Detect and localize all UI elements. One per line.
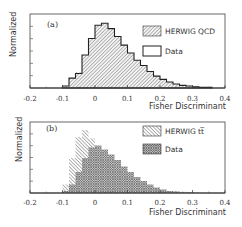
- legend-label-herwig-qcd: HERWIG QCD: [165, 27, 215, 36]
- x-tick-b: 0.2: [154, 199, 165, 207]
- chart-panel-a: (a) Normalized HERWIG QCD Data -0.2 -0.1…: [0, 0, 242, 112]
- panel-label-b: (b): [46, 124, 57, 133]
- x-tick-b: -0.2: [23, 199, 37, 207]
- x-tick-a: -0.1: [56, 95, 70, 103]
- legend-label-data-b: Data: [165, 145, 183, 154]
- chart-panel-b: (b) Normalized HERWIG tt̅ Data -0.2 -0.1…: [0, 112, 242, 227]
- x-tick-a: 0.1: [122, 95, 133, 103]
- x-tick-b: 0.1: [122, 199, 133, 207]
- x-tick-b: 0.3: [187, 199, 198, 207]
- y-axis-label-b: Normalized: [15, 117, 24, 162]
- legend-label-herwig-ttbar: HERWIG tt̅: [165, 127, 204, 136]
- x-axis-label-a: Fisher Discriminant: [149, 102, 226, 111]
- x-tick-a: 0: [93, 95, 97, 103]
- y-axis-label-a: Normalized: [9, 12, 18, 57]
- x-tick-b: -0.1: [56, 199, 70, 207]
- x-tick-a: -0.2: [23, 95, 37, 103]
- x-axis-label-b: Fisher Discriminant: [149, 208, 226, 217]
- x-tick-b: 0.4: [219, 199, 230, 207]
- panel-label-a: (a): [47, 20, 58, 29]
- legend-label-data-a: Data: [165, 47, 183, 56]
- x-tick-b: 0: [93, 199, 97, 207]
